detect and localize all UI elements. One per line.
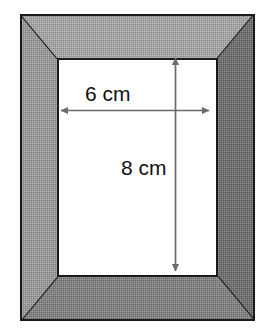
width-dimension-label: 6 cm bbox=[82, 82, 134, 105]
height-dimension-label: 8 cm bbox=[117, 155, 171, 180]
figure-canvas: 6 cm 8 cm bbox=[0, 0, 272, 335]
